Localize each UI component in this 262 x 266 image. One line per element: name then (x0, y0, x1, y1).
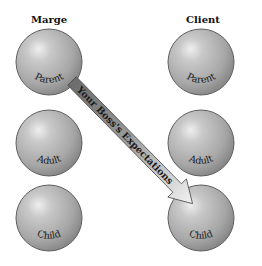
marge-adult-node: Adult (16, 110, 82, 176)
client-parent-node: Parent (168, 29, 234, 95)
arrow-label: Your Boss's Expectations (74, 83, 176, 186)
transactional-analysis-diagram: Marge Client Parent Adult Child Parent A… (0, 0, 262, 266)
client-adult-node: Adult (168, 110, 234, 176)
column-title-marge: Marge (31, 14, 67, 25)
column-title-client: Client (186, 14, 220, 25)
marge-child-node: Child (16, 185, 82, 251)
